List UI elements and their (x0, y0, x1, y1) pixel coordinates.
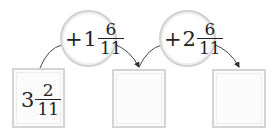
operation-1-value: + 1 6 11 (65, 20, 124, 57)
numerator: 6 (202, 20, 217, 38)
whole-part: 2 (183, 27, 196, 51)
start-mixed-number: 3 2 11 (21, 81, 61, 118)
fraction: 2 11 (35, 81, 61, 118)
whole-part: 1 (84, 27, 97, 51)
mixed-number-addition-diagram: 3 2 11 + 1 6 11 + 2 6 11 (0, 0, 279, 134)
numerator: 6 (103, 20, 118, 38)
operation-circle-1: + 1 6 11 (60, 10, 117, 67)
plus-sign: + (65, 27, 83, 51)
denominator: 11 (98, 38, 124, 57)
denominator: 11 (35, 99, 61, 118)
start-value-box: 3 2 11 (12, 68, 65, 128)
fraction: 6 11 (98, 20, 124, 57)
answer-box-2[interactable] (212, 69, 266, 128)
connector-line (139, 45, 162, 67)
numerator: 2 (41, 81, 56, 99)
denominator: 11 (197, 38, 223, 57)
operation-2-value: + 2 6 11 (164, 20, 223, 57)
answer-box-1[interactable] (112, 69, 166, 128)
plus-sign: + (164, 27, 182, 51)
fraction: 6 11 (197, 20, 223, 57)
operation-circle-2: + 2 6 11 (159, 10, 216, 67)
whole-part: 3 (21, 88, 34, 112)
connector-line (40, 45, 62, 68)
